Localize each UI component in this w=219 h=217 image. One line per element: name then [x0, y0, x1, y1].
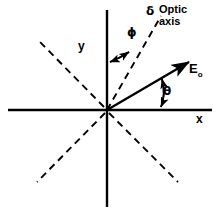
- dashed-line-upper-left: [40, 42, 104, 107]
- optic-axis-diagram: y x ϕ θ δ Optic axis Eo: [0, 0, 219, 217]
- e-field-vector: [107, 62, 189, 110]
- optic-axis-label: Optic axis: [159, 4, 187, 27]
- optic-axis-label-line1: Optic: [159, 4, 187, 16]
- y-axis-label: y: [78, 40, 85, 53]
- dashed-line-lower-right: [109, 113, 178, 182]
- diagram-canvas: [0, 0, 219, 217]
- phi-angle-arc-reverse: [110, 52, 129, 62]
- e-field-symbol: E: [189, 61, 198, 76]
- e-field-label: Eo: [189, 62, 203, 79]
- x-axis-label: x: [196, 113, 203, 126]
- e-field-subscript: o: [198, 70, 203, 79]
- optic-axis-label-line2: axis: [159, 16, 187, 28]
- phi-angle-label: ϕ: [127, 26, 137, 39]
- delta-label: δ: [146, 5, 154, 18]
- theta-angle-label: θ: [163, 85, 171, 98]
- dashed-line-lower-left: [37, 113, 105, 182]
